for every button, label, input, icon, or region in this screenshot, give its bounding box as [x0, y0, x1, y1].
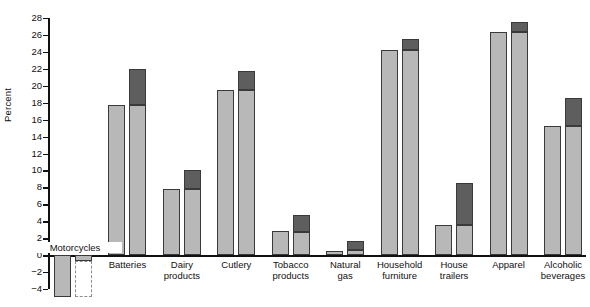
bar-chart: Percent −4−20246810121416182022242628 Mo…: [0, 0, 590, 307]
category-label: Alcoholicbeverages: [518, 259, 590, 281]
y-tick-label: 22: [31, 64, 42, 74]
bar-secondary: [402, 18, 419, 289]
bar-segment-base: [511, 32, 528, 256]
bar-primary: [272, 18, 289, 289]
bar-segment-base: [184, 189, 201, 255]
bar-segment-base: [544, 126, 561, 255]
bar-segment-base: [238, 90, 255, 255]
y-tick-mark: [43, 103, 48, 104]
category-label-line: products: [137, 270, 227, 281]
y-tick-mark: [43, 204, 48, 205]
bar-segment-base: [456, 225, 473, 255]
y-tick-mark: [43, 137, 48, 138]
bar-segment-base: [435, 225, 452, 255]
bar-segment-base: [217, 90, 234, 255]
y-tick-mark: [43, 221, 48, 222]
y-tick-mark: [43, 170, 48, 171]
y-tick-label: 26: [31, 30, 42, 40]
y-tick-label: −4: [31, 284, 42, 294]
y-tick-mark: [43, 69, 48, 70]
y-tick-mark: [43, 86, 48, 87]
bar-segment-base: [402, 50, 419, 255]
y-tick-label: 18: [31, 98, 42, 108]
bar-segment-base: [163, 189, 180, 255]
bar-segment-increment: [347, 241, 364, 250]
bar-secondary: [565, 18, 582, 289]
y-axis-label: Percent: [2, 52, 13, 122]
y-tick-mark: [43, 255, 48, 256]
bar-segment-increment: [293, 215, 310, 232]
bar-segment-increment: [184, 170, 201, 189]
plot-area: −4−20246810121416182022242628 Motorcycle…: [48, 18, 586, 289]
y-tick-label: 12: [31, 149, 42, 159]
bar-segment-base: [326, 251, 343, 255]
bar-segment-increment: [511, 22, 528, 31]
y-tick-mark: [43, 120, 48, 121]
bar-secondary: [511, 18, 528, 289]
bar-segment-base: [108, 105, 125, 255]
y-tick-mark: [43, 187, 48, 188]
bar-segment-base: [381, 50, 398, 255]
bar-secondary: [293, 18, 310, 289]
bar-segment-base: [490, 32, 507, 256]
y-tick-mark: [43, 238, 48, 239]
bar-primary: [381, 18, 398, 289]
y-tick-label: 14: [31, 132, 42, 142]
bar-primary: [163, 18, 180, 289]
category-label-line: trailers: [409, 270, 499, 281]
bar-secondary: [184, 18, 201, 289]
bar-primary: [544, 18, 561, 289]
y-tick-label: 28: [31, 13, 42, 23]
category-label: Motorcycles: [28, 242, 122, 253]
bar-segment-increment: [129, 69, 146, 105]
y-tick-label: 24: [31, 47, 42, 57]
bar-secondary: [129, 18, 146, 289]
y-tick-label: 20: [31, 81, 42, 91]
bar-segment-base: [565, 126, 582, 255]
y-tick-mark: [43, 154, 48, 155]
y-tick-label: 4: [37, 217, 42, 227]
category-label-line: Alcoholic: [518, 259, 590, 270]
bar-segment-base: [129, 105, 146, 255]
y-tick-label: 6: [37, 200, 42, 210]
bar-segment-base: [272, 231, 289, 255]
bar-segment-increment: [456, 183, 473, 224]
bar-segment-increment: [402, 39, 419, 50]
bar-primary: [217, 18, 234, 289]
bar-primary: [435, 18, 452, 289]
bar-secondary: [347, 18, 364, 289]
bar-segment-base: [293, 232, 310, 255]
y-tick-label: −2: [31, 267, 42, 277]
category-label-line: beverages: [518, 270, 590, 281]
bar-secondary: [456, 18, 473, 289]
y-tick-mark: [43, 18, 48, 19]
bar-segment-increment: [565, 98, 582, 126]
y-tick-mark: [43, 35, 48, 36]
bar-secondary: [238, 18, 255, 289]
category-label-line: Motorcycles: [30, 242, 120, 253]
y-tick-label: 8: [37, 183, 42, 193]
bar-primary: [326, 18, 343, 289]
y-tick-label: 16: [31, 115, 42, 125]
bar-segment-base: [54, 255, 71, 297]
y-tick-mark: [43, 289, 48, 290]
y-tick-mark: [43, 52, 48, 53]
y-tick-mark: [43, 272, 48, 273]
bar-segment-increment: [238, 71, 255, 90]
bar-segment-base: [347, 250, 364, 255]
y-tick-label: 10: [31, 166, 42, 176]
bar-primary: [490, 18, 507, 289]
